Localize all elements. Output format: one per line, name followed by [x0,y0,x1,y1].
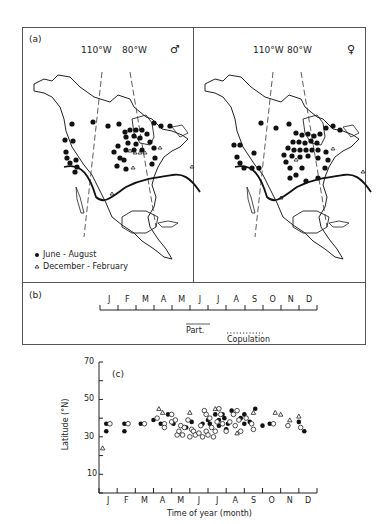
data-point [100,446,104,450]
y-tick-50: 50 [84,394,94,403]
y-tick-10: 10 [87,469,97,478]
data-point [198,423,203,428]
data-point [224,429,229,434]
data-point [104,429,109,434]
data-point [173,418,178,423]
data-point [197,431,202,436]
data-point [186,418,191,423]
x-tick-label: J [190,496,208,506]
latitude-scatter-plot [0,0,381,524]
data-point [260,423,265,428]
data-point [188,435,193,440]
x-tick-label: A [226,496,244,506]
data-point [297,420,302,425]
x-tick-label: A [154,496,172,506]
x-tick-label: F [117,496,135,506]
data-point [155,416,160,421]
x-tick-label: O [263,496,281,506]
data-point [302,429,307,434]
x-tick-labels: J F M A M J J A S O N D [99,496,317,506]
data-point [142,421,147,426]
data-point [204,412,209,417]
data-point [237,418,242,423]
data-point [231,412,236,417]
data-point [162,425,167,430]
y-tick-30: 30 [84,432,94,441]
data-point [108,421,113,426]
data-point [209,425,214,430]
x-tick-label: M [172,496,190,506]
y-axis-label: Latitude (°N) [61,399,70,451]
data-point [180,433,185,438]
data-point [222,416,227,421]
y-tick-70: 70 [84,357,94,366]
x-tick-label: M [135,496,153,506]
x-tick-label: J [99,496,117,506]
data-point [244,416,249,421]
data-point [271,421,276,426]
data-point [211,435,216,440]
x-axis-label: Time of year (month) [167,509,252,518]
data-point [249,421,254,426]
x-tick-label: S [244,496,262,506]
data-point [122,429,127,434]
panel-c-label: (c) [112,369,124,379]
data-point [238,429,243,434]
data-point [235,408,240,413]
data-point [206,433,211,438]
data-point [278,412,282,416]
data-point [157,407,161,411]
data-point [213,429,218,434]
x-tick-label: N [281,496,299,506]
data-point [286,423,291,428]
data-point [298,425,303,430]
data-point [188,410,192,414]
data-point [273,410,277,414]
data-point [228,420,233,425]
data-point [200,435,205,440]
data-point [169,412,174,417]
x-tick-label: D [299,496,317,506]
data-point [242,421,247,426]
data-point [218,412,223,417]
data-point [177,429,182,434]
data-point [288,418,292,422]
data-point [208,416,213,421]
data-point [233,423,238,428]
data-point [213,412,218,417]
data-point [182,425,187,430]
data-point [215,420,220,425]
data-point [220,421,225,426]
x-tick-label: J [208,496,226,506]
data-point [126,421,131,426]
data-point [297,414,301,418]
data-point [251,427,256,432]
